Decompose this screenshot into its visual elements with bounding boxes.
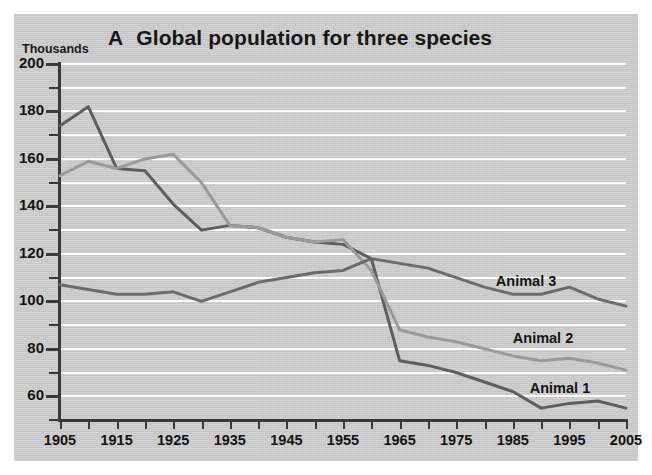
series-line <box>60 107 626 408</box>
series-label: Animal 3 <box>496 273 556 289</box>
series-label: Animal 2 <box>513 330 573 346</box>
figure-container: Thousands AGlobal population for three s… <box>0 0 652 475</box>
series-lines <box>0 0 652 475</box>
series-label: Animal 1 <box>530 380 590 396</box>
